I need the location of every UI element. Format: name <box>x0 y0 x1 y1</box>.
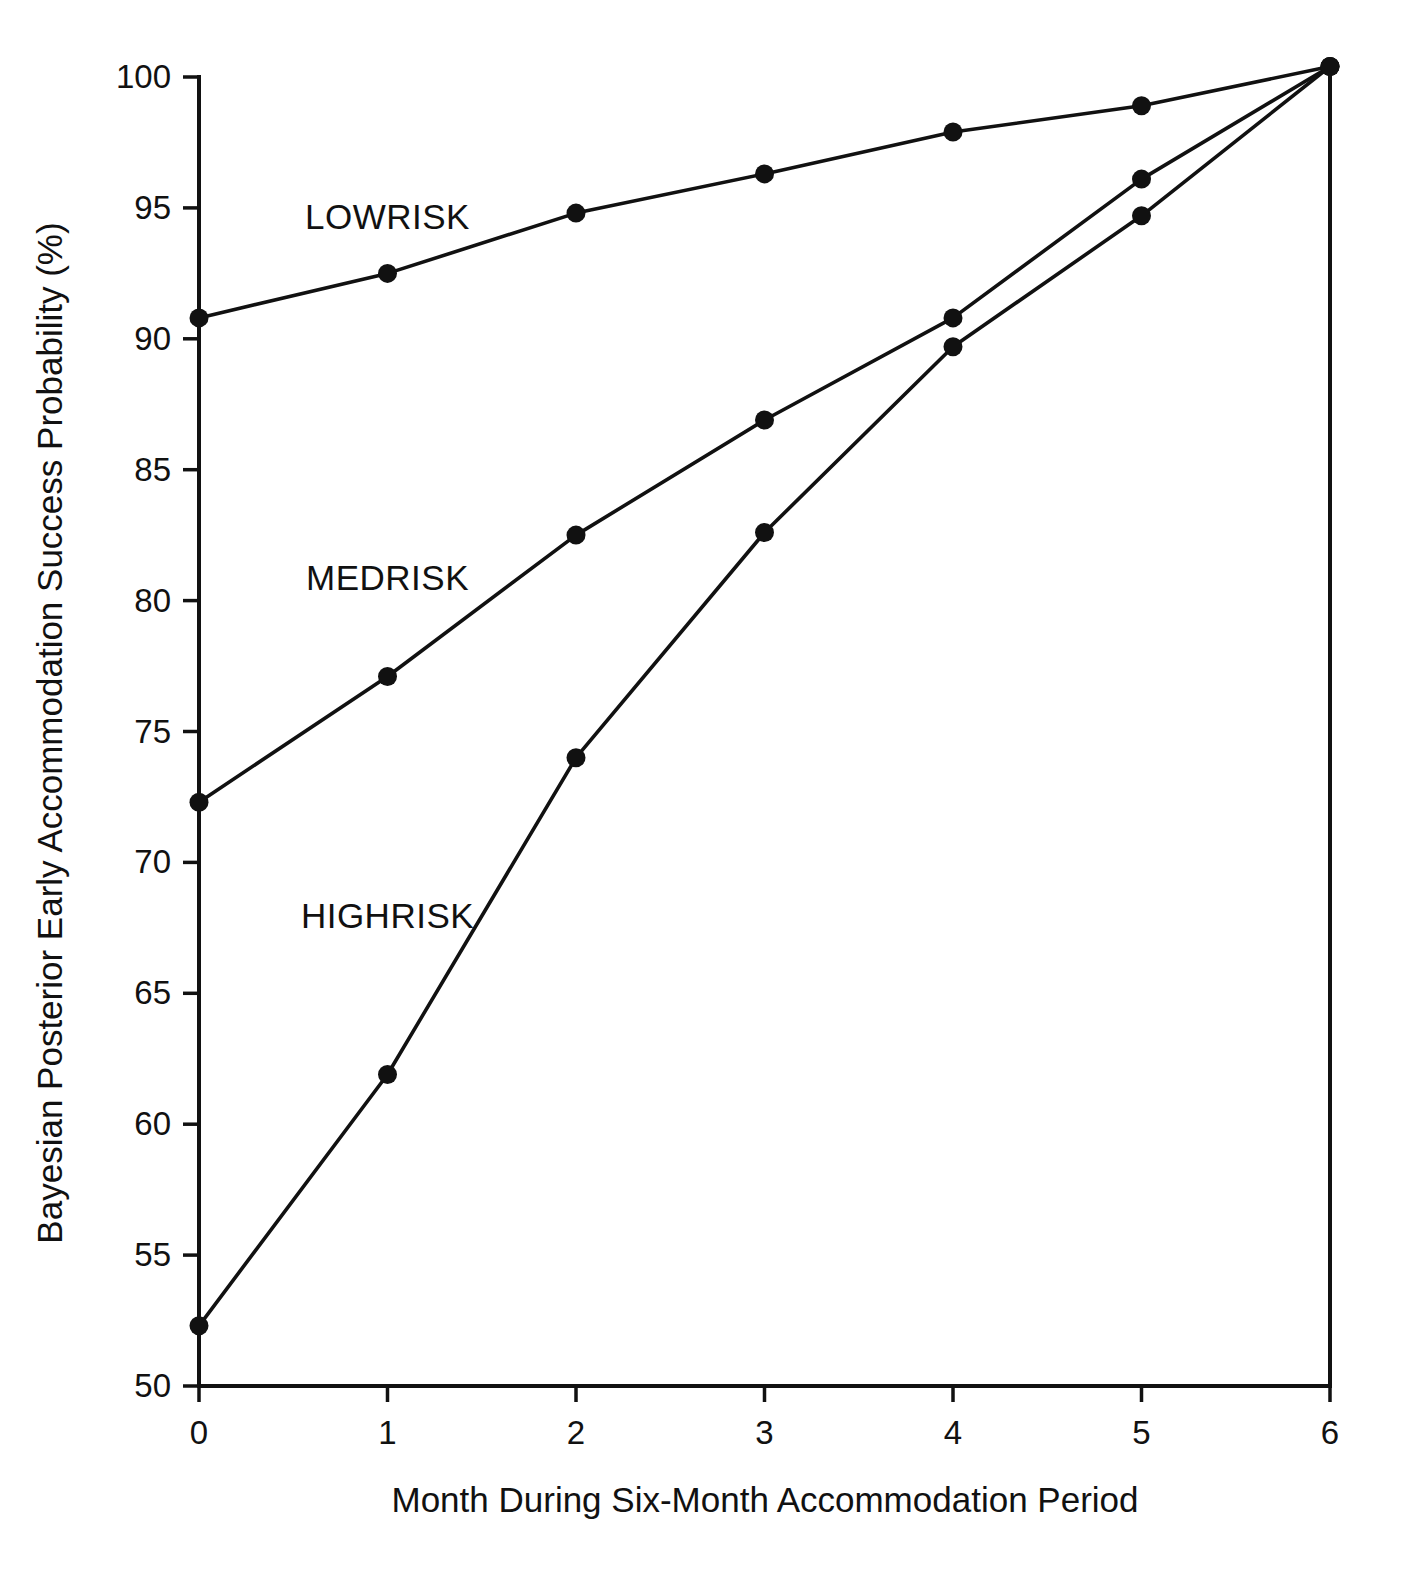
x-tick-label: 0 <box>190 1414 208 1451</box>
x-tick-label: 4 <box>944 1414 962 1451</box>
data-point-medrisk <box>755 411 774 430</box>
data-point-medrisk <box>378 667 397 686</box>
x-tick-label: 6 <box>1321 1414 1339 1451</box>
data-point-lowrisk <box>755 164 774 183</box>
y-tick-label: 80 <box>134 582 171 619</box>
x-tick-label: 2 <box>567 1414 585 1451</box>
data-point-lowrisk <box>190 308 209 327</box>
y-tick-label: 75 <box>134 713 171 750</box>
data-point-lowrisk <box>1132 96 1151 115</box>
chart-background <box>0 0 1414 1572</box>
y-tick-label: 95 <box>134 189 171 226</box>
data-point-highrisk <box>567 748 586 767</box>
x-tick-label: 3 <box>755 1414 773 1451</box>
data-point-lowrisk <box>944 123 963 142</box>
y-tick-label: 100 <box>116 58 171 95</box>
series-label-lowrisk: LOWRISK <box>305 197 470 236</box>
series-label-highrisk: HIGHRISK <box>301 896 474 935</box>
y-tick-label: 70 <box>134 843 171 880</box>
y-axis-title: Bayesian Posterior Early Accommodation S… <box>30 222 69 1243</box>
x-axis-title: Month During Six-Month Accommodation Per… <box>391 1480 1138 1519</box>
data-point-lowrisk <box>567 204 586 223</box>
x-tick-label: 1 <box>378 1414 396 1451</box>
y-tick-label: 85 <box>134 451 171 488</box>
y-tick-label: 60 <box>134 1105 171 1142</box>
x-tick-label: 5 <box>1132 1414 1150 1451</box>
data-point-lowrisk <box>378 264 397 283</box>
data-point-highrisk <box>190 1316 209 1335</box>
data-point-medrisk <box>567 526 586 545</box>
data-point-highrisk <box>1321 57 1340 76</box>
data-point-highrisk <box>1132 206 1151 225</box>
data-point-medrisk <box>1132 170 1151 189</box>
y-tick-label: 90 <box>134 320 171 357</box>
data-point-highrisk <box>755 523 774 542</box>
data-point-medrisk <box>944 308 963 327</box>
line-chart-canvas: 10095908580757065605550 0123456 LOWRISKM… <box>0 0 1414 1572</box>
data-point-highrisk <box>944 337 963 356</box>
data-point-highrisk <box>378 1065 397 1084</box>
y-tick-label: 55 <box>134 1236 171 1273</box>
y-tick-label: 65 <box>134 974 171 1011</box>
y-tick-label: 50 <box>134 1367 171 1404</box>
data-point-medrisk <box>190 793 209 812</box>
series-label-medrisk: MEDRISK <box>306 558 469 597</box>
chart-figure: 10095908580757065605550 0123456 LOWRISKM… <box>0 0 1414 1572</box>
